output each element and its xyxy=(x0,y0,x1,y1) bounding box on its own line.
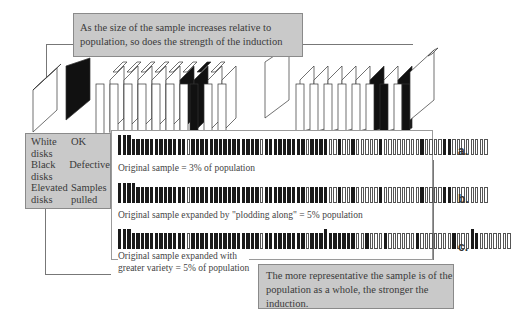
ok-disk-bar xyxy=(361,233,364,249)
defective-disk-bar xyxy=(242,187,245,203)
sample-bars-a xyxy=(118,135,489,155)
defective-disk-bar xyxy=(164,187,167,203)
defective-disk-bar xyxy=(136,187,139,203)
defective-disk-bar xyxy=(251,187,254,203)
conclusion-line-1: The more representative the sample is of… xyxy=(266,269,453,283)
defective-disk-bar xyxy=(242,139,245,155)
defective-disk-bar xyxy=(196,139,199,155)
defective-disk-bar xyxy=(283,139,286,155)
defective-disk-bar xyxy=(338,233,341,249)
defective-disk-bar xyxy=(210,233,213,249)
defective-disk-bar xyxy=(351,139,354,155)
defective-disk-bar xyxy=(223,187,226,203)
defective-disk-bar xyxy=(351,187,354,203)
ok-disk-bar xyxy=(187,187,190,203)
defective-disk-bar xyxy=(251,233,254,249)
legend: Whitedisks OK Blackdisks Defective Eleva… xyxy=(25,133,111,209)
ok-disk-bar xyxy=(425,139,428,155)
ok-disk-bar xyxy=(402,187,405,203)
defective-disk-bar xyxy=(232,139,235,155)
defective-disk-bar xyxy=(196,187,199,203)
ok-disk-bar xyxy=(187,139,190,155)
ok-disk-bar xyxy=(361,139,364,155)
ok-disk-bar xyxy=(471,187,474,203)
ok-disk-bar xyxy=(388,139,391,155)
ok-disk-bar xyxy=(438,139,441,155)
sample-bars-c xyxy=(118,229,512,249)
ok-disk-bar xyxy=(429,139,432,155)
defective-disk-bar xyxy=(168,187,171,203)
ok-disk-bar xyxy=(187,233,190,249)
sampled-disk-bar xyxy=(123,135,126,155)
defective-disk-bar xyxy=(292,233,295,249)
ok-disk-bar xyxy=(406,187,409,203)
defective-disk-bar xyxy=(278,233,281,249)
defective-disk-bar xyxy=(297,187,300,203)
defective-disk-bar xyxy=(242,233,245,249)
defective-disk-bar xyxy=(265,233,268,249)
ok-disk-bar xyxy=(384,187,387,203)
defective-disk-bar xyxy=(159,233,162,249)
ok-disk-bar xyxy=(361,187,364,203)
ok-disk-bar xyxy=(347,139,350,155)
title-line-2: population, so does the strength of the … xyxy=(80,35,302,49)
sampled-disk-bar xyxy=(118,229,121,249)
ok-disk-bar xyxy=(329,139,332,155)
sampled-disk-bar xyxy=(471,229,474,249)
ok-disk-bar xyxy=(429,187,432,203)
ok-disk-bar xyxy=(489,233,492,249)
defective-disk-bar xyxy=(379,139,382,155)
legend-value: Defective xyxy=(69,159,110,182)
defective-disk-bar xyxy=(246,139,249,155)
legend-row-black: Blackdisks Defective xyxy=(31,159,110,182)
defective-disk-bar xyxy=(132,233,135,249)
ok-disk-bar xyxy=(507,233,510,249)
defective-disk-bar xyxy=(319,139,322,155)
defective-disk-bar xyxy=(182,139,185,155)
ok-disk-bar xyxy=(425,187,428,203)
legend-key: disks xyxy=(31,148,53,159)
sample-panel: Original sample = 3% of population Origi… xyxy=(111,130,433,260)
defective-disk-bar xyxy=(452,233,455,249)
defective-disk-bar xyxy=(182,233,185,249)
conclusion-line-3: induction. xyxy=(266,297,453,311)
defective-disk-bar xyxy=(200,187,203,203)
defective-disk-bar xyxy=(132,139,135,155)
defective-disk-bar xyxy=(324,187,327,203)
ok-disk-bar xyxy=(374,187,377,203)
defective-disk-bar xyxy=(315,233,318,249)
ok-disk-bar xyxy=(388,187,391,203)
defective-disk-bar xyxy=(287,233,290,249)
defective-disk-bar xyxy=(255,187,258,203)
defective-disk-bar xyxy=(219,233,222,249)
defective-disk-bar xyxy=(232,187,235,203)
legend-key: Black xyxy=(31,159,56,170)
defective-disk-bar xyxy=(214,187,217,203)
ok-disk-bar xyxy=(365,139,368,155)
row-label-b: b. xyxy=(458,192,469,206)
defective-disk-bar xyxy=(223,139,226,155)
defective-disk-bar xyxy=(338,139,341,155)
ok-disk-bar xyxy=(425,233,428,249)
defective-disk-bar xyxy=(205,233,208,249)
defective-disk-bar xyxy=(379,187,382,203)
ok-disk-bar xyxy=(484,187,487,203)
defective-disk-bar xyxy=(214,139,217,155)
ok-disk-bar xyxy=(365,187,368,203)
ok-disk-bar xyxy=(484,139,487,155)
ok-disk-bar xyxy=(406,139,409,155)
defective-disk-bar xyxy=(210,187,213,203)
ok-disk-bar xyxy=(306,187,309,203)
legend-value: OK xyxy=(71,136,110,159)
caption-c-line-1: Original sample expanded with xyxy=(118,250,249,262)
ok-disk-bar xyxy=(333,139,336,155)
defective-disk-bar xyxy=(255,139,258,155)
ok-disk-bar xyxy=(429,233,432,249)
ok-disk-bar xyxy=(402,139,405,155)
sampled-disk-bar xyxy=(127,229,130,249)
defective-disk-bar xyxy=(265,187,268,203)
defective-disk-bar xyxy=(274,233,277,249)
caption-c: Original sample expanded with greater va… xyxy=(118,250,249,274)
defective-disk-bar xyxy=(136,139,139,155)
legend-key: White xyxy=(31,136,57,147)
